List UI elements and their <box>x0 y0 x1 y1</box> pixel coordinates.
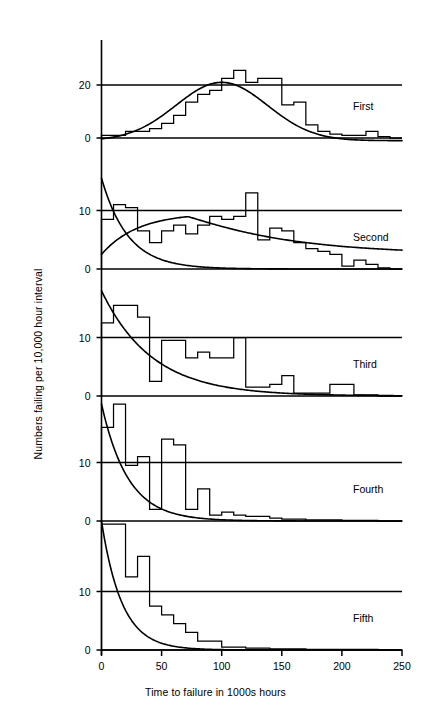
y-tick-label: 10 <box>79 457 91 469</box>
chart-canvas: 020First010Second010Third010Fourth010Fif… <box>0 0 431 713</box>
panel-fifth: 010Fifth <box>79 521 402 656</box>
y-tick-label: 0 <box>85 132 91 144</box>
panel-fourth: 010Fourth <box>79 404 402 527</box>
fit-curve-decaying-exponential <box>102 178 403 269</box>
y-tick-label: 10 <box>79 332 91 344</box>
fit-curve-exponential-fit <box>102 521 403 650</box>
histogram-outline <box>102 305 403 396</box>
y-tick-label: 10 <box>79 205 91 217</box>
panel-label-second: Second <box>353 231 389 243</box>
y-tick-label: 0 <box>85 263 91 275</box>
fit-curve-exponential-fit <box>102 291 403 396</box>
panel-label-fifth: Fifth <box>353 612 374 624</box>
panel-label-first: First <box>353 100 373 112</box>
x-axis-label: Time to failure in 1000s hours <box>0 686 431 698</box>
panel-label-fourth: Fourth <box>353 483 384 495</box>
x-tick-label: 100 <box>213 660 231 672</box>
x-axis: 050100150200250 <box>99 650 411 672</box>
x-tick-label: 50 <box>156 660 168 672</box>
panel-label-third: Third <box>353 358 377 370</box>
y-tick-label: 0 <box>85 515 91 527</box>
y-axis-label: Numbers failing per 10,000 hour interval <box>32 204 44 524</box>
x-tick-label: 250 <box>393 660 411 672</box>
y-tick-label: 0 <box>85 644 91 656</box>
y-tick-label: 20 <box>79 79 91 91</box>
y-tick-label: 10 <box>79 586 91 598</box>
panel-first: 020First <box>79 70 402 144</box>
panel-second: 010Second <box>79 178 402 275</box>
histogram-outline <box>102 524 403 650</box>
cropped-caption-remnant <box>48 0 378 11</box>
y-tick-label: 0 <box>85 390 91 402</box>
failure-distribution-figure: 020First010Second010Third010Fourth010Fif… <box>0 0 431 713</box>
x-tick-label: 0 <box>99 660 105 672</box>
x-tick-label: 200 <box>333 660 351 672</box>
x-tick-label: 150 <box>273 660 291 672</box>
panels-layer: 020First010Second010Third010Fourth010Fif… <box>79 70 402 656</box>
panel-third: 010Third <box>79 291 402 402</box>
